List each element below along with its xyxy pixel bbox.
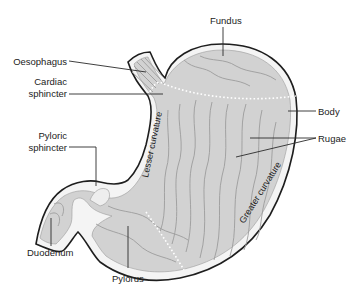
body-label: Body xyxy=(318,106,340,117)
stomach-diagram: Lesser curvature Greater curvature Fundu… xyxy=(0,0,362,298)
fundus-label: Fundus xyxy=(210,15,242,26)
duodenum-label: Duodenum xyxy=(27,247,74,258)
pyloric-sphincter-label-line1: Pyloric xyxy=(38,130,67,141)
pylorus-label: Pylorus xyxy=(112,273,144,284)
rugae-label: Rugae xyxy=(318,133,346,144)
cardiac-sphincter-label-line1: Cardiac xyxy=(34,76,67,87)
stomach-illustration xyxy=(36,44,297,280)
cardiac-sphincter-label-line2: sphincter xyxy=(28,88,67,99)
pyloric-sphincter-label-line2: sphincter xyxy=(28,142,67,153)
oesophagus-label: Oesophagus xyxy=(13,56,67,67)
